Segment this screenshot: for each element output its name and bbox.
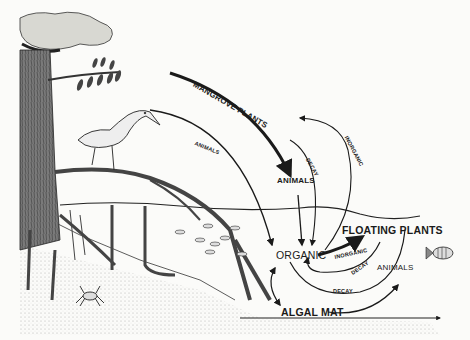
label-animals-right: ANIMALS [377,263,414,272]
label-floating-plants: FLOATING PLANTS [342,224,443,236]
fish-icon [426,247,453,259]
diagram-canvas [0,0,470,340]
mangrove-nutrient-cycle-diagram: MANGROVE PLANTS ANIMALS ANIMALS DECAY IN… [0,0,470,340]
label-organic: ORGANIC [276,249,326,261]
label-animals-center: ANIMALS [277,176,315,185]
heron [78,111,160,170]
label-decay-bottom: DECAY [333,288,353,294]
label-algal-mat: ALGAL MAT [281,306,344,318]
flow-arrows [150,73,405,313]
